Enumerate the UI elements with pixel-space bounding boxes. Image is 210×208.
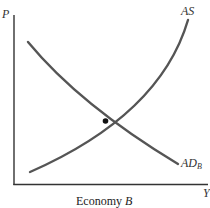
ad-curve: [28, 42, 178, 164]
ad-as-diagram: [0, 0, 210, 208]
equilibrium-point: [103, 118, 109, 124]
ad-curve-label: ADB: [181, 157, 202, 171]
as-curve: [30, 20, 188, 172]
as-curve-label: AS: [181, 5, 194, 17]
y-axis-label: P: [2, 8, 9, 20]
x-axis-label: Y: [203, 187, 210, 199]
diagram-caption: Economy B: [76, 195, 132, 207]
